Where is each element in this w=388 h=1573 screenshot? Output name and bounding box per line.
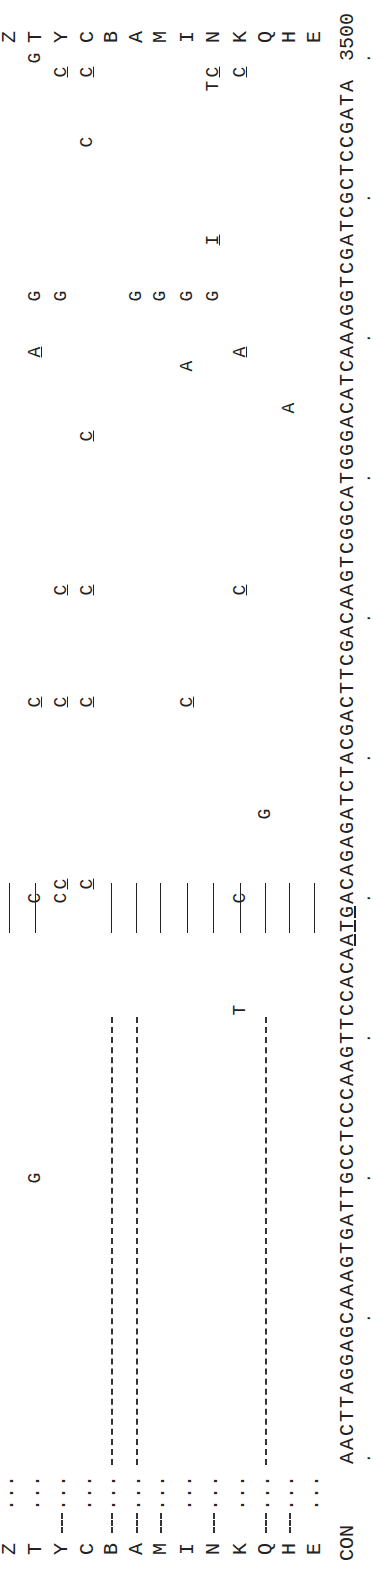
substitution-c: C xyxy=(78,135,96,149)
consensus-base: T xyxy=(338,667,358,681)
substitution-n: G xyxy=(204,289,222,303)
row-label-h: H xyxy=(280,1543,300,1555)
deletion-dash xyxy=(289,1513,291,1533)
row-label-a: A xyxy=(127,1543,147,1555)
consensus-base: T xyxy=(338,471,358,485)
substitution-n: I xyxy=(204,233,222,247)
consensus-label: CON xyxy=(338,1525,358,1561)
substitution-k: C xyxy=(231,891,249,905)
consensus-base: C xyxy=(338,1143,358,1157)
substitution-c: C xyxy=(78,695,96,709)
substitution-y: C xyxy=(52,891,70,905)
insertion-bar xyxy=(289,883,290,933)
consensus-base: C xyxy=(338,205,358,219)
consensus-base: G xyxy=(338,191,358,205)
consensus-base: A xyxy=(338,709,358,723)
consensus-base: A xyxy=(338,1437,358,1451)
consensus-base: G xyxy=(338,247,358,261)
row-label-t: T xyxy=(26,1543,46,1555)
tick-dot: · xyxy=(360,613,378,623)
consensus-base: A xyxy=(338,863,358,877)
consensus-base: A xyxy=(338,1283,358,1297)
row-start-marker: ... xyxy=(254,1475,274,1511)
consensus-base: C xyxy=(338,989,358,1003)
consensus-base: C xyxy=(338,177,358,191)
consensus-base: C xyxy=(338,541,358,555)
consensus-base: A xyxy=(338,625,358,639)
consensus-base: G xyxy=(338,527,358,541)
consensus-base: T xyxy=(338,555,358,569)
consensus-base: A xyxy=(338,1297,358,1311)
consensus-base: G xyxy=(338,513,358,527)
row-start-marker: ... xyxy=(202,1475,222,1511)
row-label-right-c: C xyxy=(78,31,98,43)
insertion-bar xyxy=(314,883,315,933)
substitution-k: C xyxy=(231,65,249,79)
substitution-c: C xyxy=(78,429,96,443)
substitution-y: G xyxy=(52,289,70,303)
consensus-base: C xyxy=(338,695,358,709)
consensus-base: A xyxy=(338,387,358,401)
substitution-i: A xyxy=(178,359,196,373)
consensus-base: G xyxy=(338,1255,358,1269)
deletion-dash xyxy=(160,1513,162,1533)
substitution-t: G xyxy=(26,1171,44,1185)
tick-dot: · xyxy=(360,473,378,483)
substitution-i: C xyxy=(178,695,196,709)
insertion-bar xyxy=(111,883,112,933)
insertion-bar xyxy=(9,883,10,933)
consensus-base: A xyxy=(338,597,358,611)
consensus-base: T xyxy=(338,1031,358,1045)
consensus-base: A xyxy=(338,233,358,247)
consensus-base: G xyxy=(338,121,358,135)
consensus-base: A xyxy=(338,933,358,947)
row-label-right-a: A xyxy=(127,31,147,43)
consensus-base: G xyxy=(338,303,358,317)
consensus-base: G xyxy=(338,905,358,919)
consensus-base: G xyxy=(338,1353,358,1367)
row-start-marker: ... xyxy=(50,1475,70,1511)
row-label-k: K xyxy=(231,1543,251,1555)
row-start-marker: ... xyxy=(76,1475,96,1511)
consensus-base: T xyxy=(338,93,358,107)
tick-dot: · xyxy=(360,53,378,63)
row-label-right-i: I xyxy=(178,31,198,43)
row-start-marker: ... xyxy=(125,1475,145,1511)
consensus-base: A xyxy=(338,1059,358,1073)
consensus-base: C xyxy=(338,653,358,667)
consensus-base: T xyxy=(338,1395,358,1409)
row-label-right-q: Q xyxy=(256,31,276,43)
row-start-marker: ... xyxy=(24,1475,44,1511)
row-label-z: Z xyxy=(0,1543,20,1555)
consensus-base: G xyxy=(338,639,358,653)
tick-dot: · xyxy=(360,1453,378,1463)
consensus-base: C xyxy=(338,149,358,163)
tick-dot: · xyxy=(360,893,378,903)
insertion-bar xyxy=(160,883,161,933)
consensus-base: A xyxy=(338,891,358,905)
substitution-t: C xyxy=(26,695,44,709)
row-label-right-z: Z xyxy=(0,31,20,43)
consensus-base: G xyxy=(338,723,358,737)
row-label-right-t: T xyxy=(26,31,46,43)
consensus-base: A xyxy=(338,807,358,821)
consensus-base: A xyxy=(338,317,358,331)
consensus-base: A xyxy=(338,1073,358,1087)
substitution-c: C xyxy=(78,65,96,79)
row-label-e: E xyxy=(305,1543,325,1555)
row-label-right-k: K xyxy=(231,31,251,43)
substitution-y: C xyxy=(52,65,70,79)
row-label-q: Q xyxy=(256,1543,276,1555)
consensus-base: C xyxy=(338,1115,358,1129)
consensus-base: T xyxy=(338,373,358,387)
consensus-base: G xyxy=(338,1045,358,1059)
consensus-base: T xyxy=(338,1409,358,1423)
insertion-bar xyxy=(136,883,137,933)
consensus-base: T xyxy=(338,1017,358,1031)
consensus-base: T xyxy=(338,919,358,933)
deletion-dash xyxy=(111,1513,113,1533)
consensus-base: A xyxy=(338,79,358,93)
insertion-bar xyxy=(213,883,214,933)
row-label-right-n: N xyxy=(204,31,224,43)
consensus-base: C xyxy=(338,499,358,513)
